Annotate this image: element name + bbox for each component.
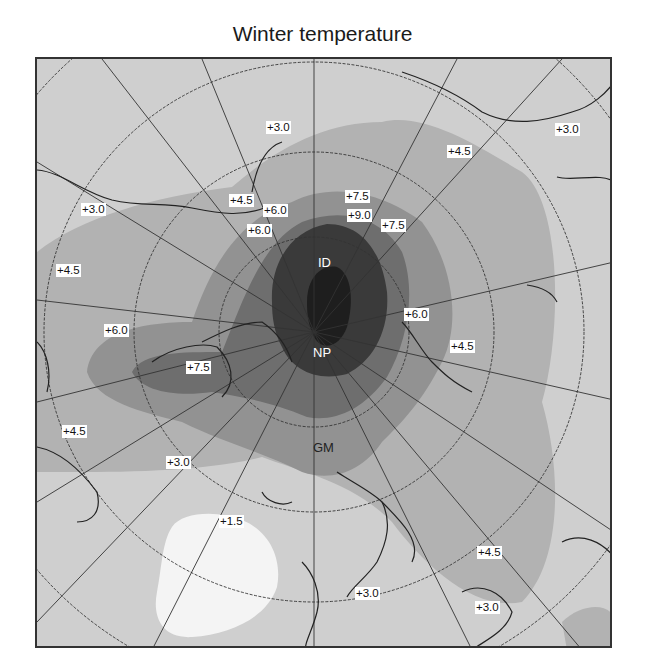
contour-label: +6.0 [104, 324, 129, 337]
contour-label: +4.5 [62, 425, 87, 438]
contour-label: +3.0 [266, 121, 291, 134]
contour-label: +4.5 [477, 546, 502, 559]
contour-label: +9.0 [347, 209, 372, 222]
marker-greenwich-meridian: GM [313, 440, 334, 455]
contour-label: +6.0 [247, 224, 272, 237]
contour-label: +7.5 [345, 190, 370, 203]
contour-label: +1.5 [219, 515, 244, 528]
contour-label: +7.5 [381, 219, 406, 232]
contour-label: +3.0 [355, 587, 380, 600]
contour-label: +7.5 [186, 361, 211, 374]
map-title: Winter temperature [0, 22, 645, 46]
contour-label: +4.5 [229, 194, 254, 207]
marker-ice-divide: ID [318, 255, 331, 270]
polar-map: ID NP GM +3.0 +3.0 +4.5 +4.5 +7.5 +3.0 +… [35, 57, 612, 648]
marker-north-pole: NP [313, 345, 331, 360]
contour-label: +3.0 [81, 203, 106, 216]
contour-label: +3.0 [166, 456, 191, 469]
contour-label: +3.0 [475, 601, 500, 614]
contour-label: +4.5 [56, 264, 81, 277]
contour-label: +4.5 [450, 340, 475, 353]
contour-label: +3.0 [555, 123, 580, 136]
contour-label: +6.0 [404, 308, 429, 321]
contour-label: +4.5 [447, 145, 472, 158]
contour-label: +6.0 [263, 204, 288, 217]
